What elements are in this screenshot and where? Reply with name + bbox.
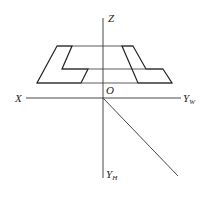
yh-axis-label: YH	[106, 168, 118, 182]
yw-axis-label: YW	[183, 92, 196, 106]
x-axis-label: X	[14, 92, 23, 104]
diagonal-45-line	[103, 98, 178, 176]
projection-diagram: Z X O YW YH	[0, 0, 203, 197]
z-axis-label: Z	[108, 12, 115, 24]
left-L-shape	[37, 46, 88, 83]
right-L-shape	[122, 46, 172, 83]
origin-label: O	[106, 84, 114, 96]
